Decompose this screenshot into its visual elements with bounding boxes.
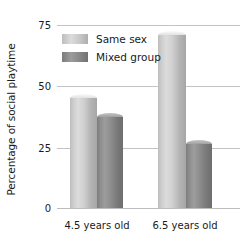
bar-6-5-same-sex [158, 31, 186, 208]
bar-body [186, 144, 212, 208]
bar-body [158, 35, 186, 208]
legend-swatch-same-sex [62, 34, 88, 44]
legend-swatch-mixed-group [62, 52, 88, 62]
legend-label-mixed-group: Mixed group [96, 51, 161, 63]
bar-6-5-mixed-group [186, 140, 212, 208]
bar-4-5-same-sex [70, 94, 97, 208]
bar-body [97, 117, 123, 208]
y-tick-label-0: 0 [45, 203, 51, 214]
x-tick-label-4-5-years: 4.5 years old [64, 220, 129, 231]
y-tick-label-25: 25 [38, 143, 51, 154]
legend: Same sex Mixed group [62, 31, 161, 67]
gridline-50: 50 [57, 86, 240, 87]
bar-4-5-mixed-group [97, 113, 123, 208]
legend-item-same-sex: Same sex [62, 31, 161, 46]
y-tick-label-75: 75 [38, 20, 51, 31]
x-tick-label-6-5-years: 6.5 years old [152, 220, 217, 231]
legend-item-mixed-group: Mixed group [62, 49, 161, 64]
legend-label-same-sex: Same sex [96, 33, 147, 45]
gridline-75: 75 [57, 25, 240, 26]
gridline-baseline-0: 0 [57, 208, 240, 209]
bar-body [70, 98, 97, 208]
y-axis-title: Percentage of social playtime [0, 0, 22, 239]
y-tick-label-50: 50 [38, 81, 51, 92]
bar-chart: Percentage of social playtime 75 50 25 0 [0, 0, 243, 239]
